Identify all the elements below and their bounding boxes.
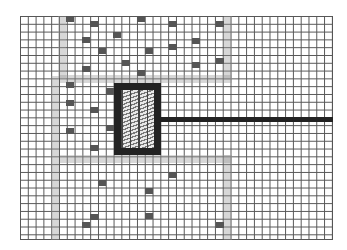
cell-mark [90, 107, 98, 113]
cell-mark [98, 48, 106, 54]
cell-mark [145, 213, 153, 219]
cell-mark [90, 214, 98, 220]
corridor-lower-horizontal [60, 155, 232, 163]
cell-mark [82, 37, 90, 43]
cell-mark [66, 100, 74, 106]
cell-mark [106, 125, 114, 131]
cell-mark [216, 222, 224, 228]
cell-mark [90, 21, 98, 27]
corridor-upper-horizontal [60, 75, 232, 83]
cell-mark [106, 88, 114, 94]
cell-mark [169, 172, 177, 178]
central-block [114, 83, 161, 155]
cell-mark [122, 60, 130, 66]
cell-mark [137, 70, 145, 76]
corridor-left-lower-vertical [51, 76, 59, 240]
cell-mark [82, 222, 90, 228]
cell-mark [137, 16, 145, 22]
cell-mark [90, 145, 98, 151]
cell-mark [192, 62, 200, 68]
corridor-left-upper-vertical [58, 16, 66, 78]
cell-mark [113, 32, 121, 38]
cell-mark [66, 82, 74, 88]
connector-bar [160, 117, 333, 122]
central-block-hatched-core [121, 90, 154, 148]
cell-mark [66, 16, 74, 22]
corridor-right-upper-vertical [224, 16, 232, 80]
cell-mark [192, 38, 200, 44]
cell-mark [216, 21, 224, 27]
cell-mark [216, 58, 224, 64]
corridor-right-lower-vertical [224, 155, 232, 240]
cell-mark [82, 66, 90, 72]
cell-mark [66, 128, 74, 134]
cell-mark [145, 188, 153, 194]
cell-mark [169, 44, 177, 50]
cell-mark [169, 21, 177, 27]
cell-mark [145, 48, 153, 54]
floorplan-diagram [0, 0, 347, 250]
cell-mark [98, 180, 106, 186]
